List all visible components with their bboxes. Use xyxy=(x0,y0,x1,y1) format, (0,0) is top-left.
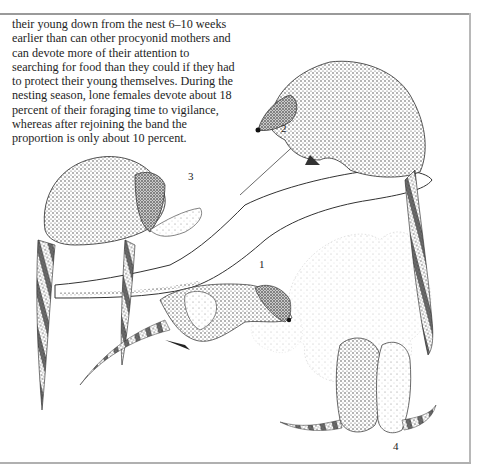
paragraph-line: to protect their young themselves. Durin… xyxy=(12,74,252,88)
article-paragraph: their young down from the nest 6–10 week… xyxy=(12,17,252,146)
paragraph-line: earlier than can other procyonid mothers… xyxy=(12,31,252,45)
paragraph-line: whereas after rejoining the band the xyxy=(12,117,252,131)
paragraph-line: percent of their foraging time to vigila… xyxy=(12,103,252,117)
paragraph-line: searching for food than they could if th… xyxy=(12,60,252,74)
figure-label-3: 3 xyxy=(188,170,194,182)
paragraph-line: nesting season, lone females devote abou… xyxy=(12,88,252,102)
figure-label-4: 4 xyxy=(393,440,399,452)
coati-4-pair xyxy=(280,338,436,433)
paragraph-line: their young down from the nest 6–10 week… xyxy=(12,17,252,31)
figure-label-1: 1 xyxy=(259,258,265,270)
paragraph-line: proportion is only about 10 percent. xyxy=(12,131,252,145)
figure-label-2: 2 xyxy=(281,122,287,134)
paragraph-line: can devote more of their attention to xyxy=(12,46,252,60)
